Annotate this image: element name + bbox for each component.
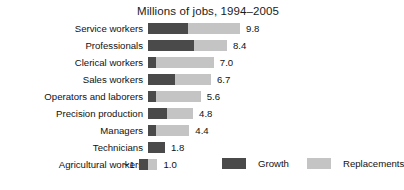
stacked-bar — [148, 57, 214, 68]
stacked-bar — [148, 91, 201, 102]
chart-row: Precision production4.8 — [0, 107, 404, 124]
legend-swatch-growth — [222, 158, 246, 169]
bar-segment-growth — [148, 23, 188, 34]
chart-row: Clerical workers7.0 — [0, 56, 404, 73]
chart-row: Service workers9.8 — [0, 22, 404, 39]
legend-label-growth: Growth — [258, 158, 289, 169]
stacked-bar — [148, 74, 211, 85]
stacked-bar — [148, 23, 240, 34]
value-label: 5.6 — [207, 91, 220, 102]
category-label: Technicians — [0, 142, 143, 153]
chart-row: Managers4.4 — [0, 124, 404, 141]
chart-legend: Growth Replacements — [0, 157, 404, 171]
chart-row: Professionals8.4 — [0, 39, 404, 56]
value-label: 7.0 — [220, 57, 233, 68]
bar-segment-replacements — [156, 57, 214, 68]
bar-segment-replacements — [156, 125, 190, 136]
chart-row: Sales workers6.7 — [0, 73, 404, 90]
chart-row: Technicians1.8 — [0, 141, 404, 158]
bar-segment-growth — [148, 57, 156, 68]
value-label: 4.8 — [199, 108, 212, 119]
bar-segment-growth — [148, 108, 167, 119]
bar-segment-growth — [148, 91, 156, 102]
value-label: 1.8 — [171, 142, 184, 153]
bar-segment-replacements — [188, 23, 240, 34]
category-label: Clerical workers — [0, 57, 143, 68]
bar-segment-replacements — [194, 40, 227, 51]
bar-segment-growth — [148, 74, 175, 85]
bar-segment-replacements — [167, 108, 193, 119]
category-label: Professionals — [0, 40, 143, 51]
plot-area: Service workers9.8Professionals8.4Cleric… — [0, 22, 404, 172]
bar-segment-growth — [148, 40, 194, 51]
value-label: 8.4 — [233, 40, 246, 51]
category-label: Operators and laborers — [0, 91, 143, 102]
value-label: 6.7 — [217, 74, 230, 85]
category-label: Sales workers — [0, 74, 143, 85]
category-label: Precision production — [0, 108, 143, 119]
legend-swatch-replacements — [307, 158, 331, 169]
value-label: 4.4 — [195, 125, 208, 136]
category-label: Service workers — [0, 23, 143, 34]
bar-segment-growth — [148, 142, 165, 153]
bar-chart: Millions of jobs, 1994–2005 Service work… — [0, 0, 404, 190]
bar-segment-growth — [148, 125, 156, 136]
stacked-bar — [148, 108, 193, 119]
legend-item-growth: Growth — [222, 157, 289, 169]
chart-row: Operators and laborers5.6 — [0, 90, 404, 107]
legend-item-replacements: Replacements — [307, 157, 404, 169]
stacked-bar — [148, 40, 227, 51]
category-label: Managers — [0, 125, 143, 136]
stacked-bar — [148, 142, 165, 153]
chart-title: Millions of jobs, 1994–2005 — [0, 5, 404, 17]
value-label: 9.8 — [246, 23, 259, 34]
stacked-bar — [148, 125, 189, 136]
legend-label-replacements: Replacements — [343, 158, 404, 169]
bar-segment-replacements — [156, 91, 201, 102]
bar-segment-replacements — [175, 74, 211, 85]
